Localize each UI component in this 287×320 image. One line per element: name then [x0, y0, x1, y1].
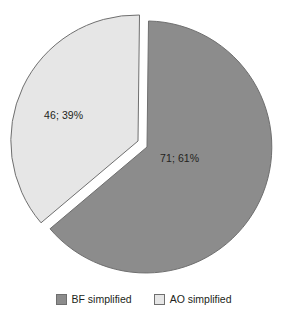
slice-label-ao: 46; 39%	[44, 109, 83, 121]
legend-label-ao: AO simplified	[170, 294, 232, 305]
legend-swatch-ao-icon	[154, 294, 165, 305]
legend-label-bf: BF simplified	[72, 294, 132, 305]
pie-plot-area: 46; 39% 71; 61%	[0, 0, 287, 282]
legend-swatch-bf-icon	[56, 294, 67, 305]
slice-label-bf: 71; 61%	[160, 152, 199, 164]
legend-item-ao[interactable]: AO simplified	[154, 294, 232, 305]
pie-chart: 46; 39% 71; 61% BF simplified AO simplif…	[0, 0, 287, 320]
legend-item-bf[interactable]: BF simplified	[56, 294, 132, 305]
chart-legend: BF simplified AO simplified	[0, 289, 287, 309]
pie-svg	[0, 0, 287, 282]
